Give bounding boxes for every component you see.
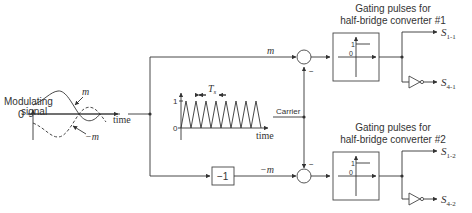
summing-junction-2: − (297, 160, 330, 183)
top-branch-wire (150, 57, 296, 114)
inverter-gain-label: −1 (217, 171, 229, 182)
carrier-feed: Carrier (273, 67, 306, 168)
svg-text:−: − (309, 67, 314, 76)
pwm-block-diagram: Modulating signal 0 time m −m m −1 −m 1 (0, 0, 472, 213)
time-label: time (113, 114, 131, 125)
not-gate-2 (409, 193, 420, 205)
modulating-title-2: signal (21, 106, 47, 117)
bottom-signal-label: −m (260, 164, 274, 175)
summing-junction-1: − (297, 50, 330, 76)
carrier-one-label: 1 (173, 97, 178, 106)
svg-text:0: 0 (349, 50, 353, 57)
comparator-1-title-1: Gating pulses for (355, 3, 431, 14)
carrier-zero-label: 0 (173, 124, 178, 133)
comparator-1-title-2: half-bridge converter #1 (340, 15, 446, 26)
neg-m-label: −m (85, 131, 99, 142)
carrier-triangle-wave (181, 101, 261, 128)
output-s1-1: S1-1 (441, 26, 456, 41)
not-gate-1 (409, 76, 420, 88)
carrier-plot: 1 0 Ts time (173, 83, 274, 141)
comparator-2-title-2: half-bridge converter #2 (340, 134, 446, 145)
svg-text:1: 1 (351, 160, 355, 167)
signal-paths: m −1 −m (128, 45, 296, 185)
neg-m-pointer (73, 126, 86, 134)
comparator-2-title-1: Gating pulses for (355, 122, 431, 133)
bottom-branch-wire (150, 114, 210, 176)
m-label: m (82, 86, 89, 97)
m-pointer (75, 97, 83, 105)
svg-text:−: − (309, 160, 314, 169)
output-s1-2: S1-2 (441, 145, 456, 160)
output-s4-2: S4-2 (441, 193, 456, 208)
modulating-signal-plot: Modulating signal 0 time m −m (4, 86, 131, 142)
svg-text:0: 0 (349, 169, 353, 176)
carrier-label: Carrier (276, 107, 301, 116)
output-s4-1: S4-1 (441, 76, 456, 91)
svg-text:1: 1 (351, 41, 355, 48)
comparator-2: Gating pulses for half-bridge converter … (333, 122, 456, 208)
carrier-time-label: time (256, 130, 274, 141)
zero-label: 0 (18, 108, 24, 120)
period-label: Ts (208, 83, 217, 96)
top-signal-label: m (267, 45, 274, 56)
comparator-1: Gating pulses for half-bridge converter … (333, 3, 456, 91)
